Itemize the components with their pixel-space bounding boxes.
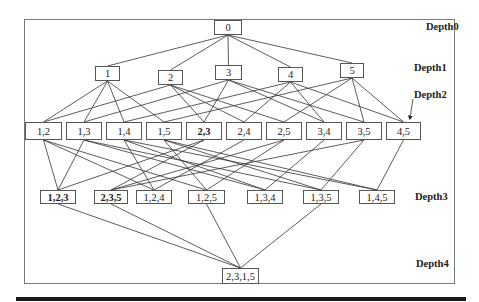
depth2-arrow-icon xyxy=(410,99,413,118)
bottom-rule xyxy=(16,297,466,301)
node-25: 2,5 xyxy=(266,122,302,140)
edge-1-12 xyxy=(44,81,108,122)
node-3: 3 xyxy=(215,65,242,80)
depth-label-d1: Depth1 xyxy=(414,62,447,73)
node-12: 1,2 xyxy=(25,122,62,140)
node-1: 1 xyxy=(95,66,120,81)
node-5: 5 xyxy=(340,63,364,78)
node-235: 2,3,5 xyxy=(94,190,128,204)
depth-label-d2: Depth2 xyxy=(414,89,447,100)
edge-13-135 xyxy=(84,140,321,190)
edge-0-1 xyxy=(108,35,229,66)
edge-2-12 xyxy=(44,85,171,122)
edge-34-134 xyxy=(265,140,324,190)
edge-0-4 xyxy=(228,35,291,67)
node-125: 1,2,5 xyxy=(188,190,225,204)
node-123: 1,2,3 xyxy=(40,190,76,204)
node-124: 1,2,4 xyxy=(136,190,172,204)
edge-45-145 xyxy=(377,140,404,190)
depth-label-d4: Depth4 xyxy=(416,258,449,269)
node-0: 0 xyxy=(214,20,242,35)
edge-12-124 xyxy=(44,140,155,190)
node-15: 1,5 xyxy=(146,122,182,140)
node-13: 1,3 xyxy=(66,122,102,140)
node-134: 1,3,4 xyxy=(247,190,283,204)
edge-3-34 xyxy=(229,80,325,122)
edge-25-125 xyxy=(207,140,285,190)
edge-5-15 xyxy=(164,78,352,122)
edge-layer xyxy=(0,0,479,302)
edge-14-124 xyxy=(124,140,154,190)
edge-235-2315 xyxy=(111,204,241,268)
node-23: 2,3 xyxy=(186,122,222,140)
edge-12-123 xyxy=(44,140,59,190)
node-35: 3,5 xyxy=(346,122,382,140)
edge-5-35 xyxy=(352,78,364,122)
depth-label-d0: Depth0 xyxy=(426,21,459,32)
edge-24-124 xyxy=(154,140,244,190)
node-45: 4,5 xyxy=(386,122,421,140)
edge-15-125 xyxy=(164,140,207,190)
node-2315: 2,3,1,5 xyxy=(222,268,259,284)
edge-0-5 xyxy=(228,35,352,63)
edge-14-145 xyxy=(124,140,377,190)
node-135: 1,3,5 xyxy=(303,190,339,204)
lattice-diagram: 0123451,21,31,41,52,32,42,53,43,54,51,2,… xyxy=(0,0,479,302)
edge-135-2315 xyxy=(241,204,322,268)
edge-0-3 xyxy=(228,35,229,65)
edge-15-135 xyxy=(164,140,321,190)
node-34: 3,4 xyxy=(306,122,342,140)
node-14: 1,4 xyxy=(106,122,142,140)
edge-5-45 xyxy=(352,78,404,122)
edge-125-2315 xyxy=(207,204,241,268)
edge-15-145 xyxy=(164,140,377,190)
edge-123-2315 xyxy=(58,204,241,268)
node-24: 2,4 xyxy=(226,122,262,140)
edge-3-13 xyxy=(84,80,229,122)
depth-label-d3: Depth3 xyxy=(415,191,448,202)
node-4: 4 xyxy=(278,67,303,82)
node-145: 1,4,5 xyxy=(359,190,395,204)
node-2: 2 xyxy=(158,70,183,85)
